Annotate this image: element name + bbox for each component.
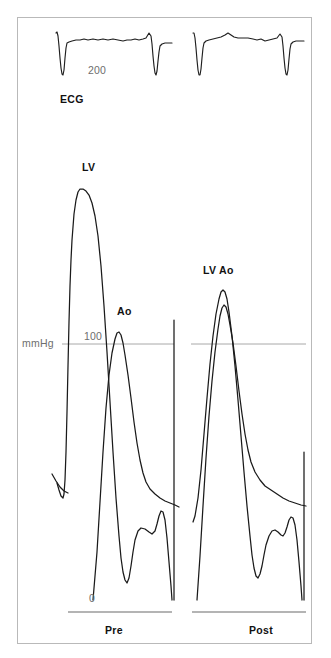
ao-label-pre: Ao xyxy=(117,305,132,317)
pressure-tracing-figure: 200 ECG LV Ao mmHg 100 LV Ao 0 Pre Post xyxy=(0,0,331,658)
panel-label-post: Post xyxy=(249,624,273,636)
scale-label-0: 0 xyxy=(89,592,95,604)
scale-label-100: 100 xyxy=(84,330,102,342)
ao-trace-pre xyxy=(93,332,179,600)
ecg-trace-post xyxy=(193,33,304,75)
lv-trace-pre xyxy=(57,189,172,600)
panel-label-pre: Pre xyxy=(105,624,123,636)
scale-label-200: 200 xyxy=(88,64,106,76)
lv-ao-label-post: LV Ao xyxy=(203,264,234,276)
lv-label-pre: LV xyxy=(82,161,95,173)
ecg-trace-pre xyxy=(56,32,172,75)
waveform-canvas xyxy=(0,0,331,658)
ecg-label: ECG xyxy=(60,93,84,105)
units-label-mmhg: mmHg xyxy=(22,337,54,349)
